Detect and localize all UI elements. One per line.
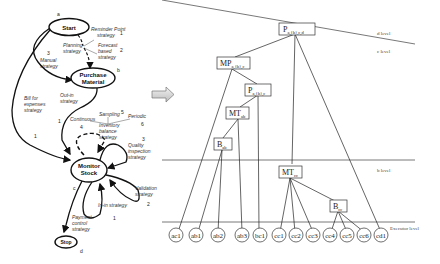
c-level-label: c level	[377, 49, 391, 54]
svg-text:bc1: bc1	[255, 232, 266, 240]
leaf-cc4[interactable]: cc4	[323, 228, 337, 242]
leaf-cc3[interactable]: cc3	[306, 228, 320, 242]
manual-num: 3	[47, 50, 50, 56]
state-tag-d: d	[80, 248, 83, 254]
leaf-ac1[interactable]: ac1	[169, 228, 183, 242]
box-p-top[interactable]: Pa,{b},c,d	[279, 23, 315, 36]
reminder-num: 1	[120, 30, 123, 36]
svg-text:cc2: cc2	[291, 232, 301, 240]
svg-text:ab1: ab1	[191, 232, 202, 240]
sampling-num: 5	[121, 109, 124, 115]
state-purchase-material[interactable]: Purchase Material	[71, 68, 115, 88]
reminder-strategy-label-2: strategy	[97, 32, 115, 38]
forecast-strategy-label-3: strategy	[98, 54, 116, 60]
hierarchy-diagram: d level c level b level Executor level	[162, 0, 420, 242]
bill-num: 1	[34, 133, 37, 139]
box-p-mid[interactable]: Pa,{b},c	[245, 84, 271, 97]
state-purchase-label-2: Material	[82, 79, 105, 85]
payment-strategy-label-3: strategy	[72, 226, 90, 232]
state-start-label: Start	[62, 25, 76, 31]
validation-strategy-label-2: strategy	[135, 191, 153, 197]
leaf-bc1[interactable]: bc1	[253, 228, 267, 242]
svg-text:ab2: ab2	[213, 232, 224, 240]
leaf-cc2[interactable]: cc2	[289, 228, 303, 242]
sampling-label: Sampling	[99, 111, 120, 117]
svg-text:cd1: cd1	[376, 232, 387, 240]
state-monitor-label-2: Stock	[81, 170, 98, 176]
outin-strategy-label-2: strategy	[60, 98, 78, 104]
leaf-cc6[interactable]: cc6	[357, 228, 371, 242]
svg-text:cc3: cc3	[308, 232, 318, 240]
state-purchase-label-1: Purchase	[79, 72, 107, 78]
leaf-cd1[interactable]: cd1	[374, 228, 388, 242]
leaf-nodes: ac1 ab1 ab2 ab3 bc1 cc1 cc2 cc3 cc4 cc5 …	[169, 228, 388, 242]
leaf-ab1[interactable]: ab1	[189, 228, 203, 242]
svg-text:cc4: cc4	[325, 232, 335, 240]
validation-num: 2	[147, 201, 150, 207]
d-level-label: d level	[377, 31, 391, 36]
box-b-cc[interactable]: Bcc	[330, 200, 347, 212]
periodic-label: Periodic	[128, 113, 147, 119]
state-monitor-stock[interactable]: Monitor Stock	[71, 158, 107, 182]
b-level-label: b level	[377, 168, 391, 173]
bill-strategy-label-3: strategy	[24, 107, 42, 113]
state-stop-label: Stop	[60, 239, 71, 245]
svg-text:cc1: cc1	[274, 232, 284, 240]
planning-strategy-label-2: strategy	[63, 48, 81, 54]
state-tag-a: a	[57, 11, 60, 17]
box-mt-cc[interactable]: MTcc	[279, 166, 302, 178]
state-stop[interactable]: Stop	[55, 236, 77, 248]
box-mt-ab[interactable]: MTab	[226, 107, 249, 119]
state-tag-b: b	[117, 67, 120, 73]
diagram-canvas: a Start Reminder Point strategy 1 Planni…	[0, 0, 440, 264]
state-start[interactable]: Start	[49, 19, 89, 36]
leaf-ab2[interactable]: ab2	[211, 228, 225, 242]
state-tag-c: c	[73, 185, 76, 191]
svg-text:cc6: cc6	[359, 232, 369, 240]
leaf-ab3[interactable]: ab3	[235, 228, 249, 242]
transform-arrow-icon	[152, 87, 174, 102]
forecast-num: 2	[120, 47, 123, 53]
quality-strategy-label-3: strategy	[128, 154, 146, 160]
inin-strategy-label: In-in strategy	[98, 202, 127, 208]
periodic-num: 6	[141, 121, 144, 127]
leaf-cc5[interactable]: cc5	[340, 228, 354, 242]
leaf-cc1[interactable]: cc1	[272, 228, 286, 242]
state-monitor-label-1: Monitor	[78, 163, 101, 169]
executor-level-label: Executor level	[390, 226, 420, 231]
outin-num: 1	[58, 118, 61, 124]
box-b-ab[interactable]: Bab	[214, 138, 232, 150]
continuous-num: 4	[80, 124, 83, 130]
svg-text:ab3: ab3	[237, 232, 248, 240]
inin-num: 1	[113, 215, 116, 221]
svg-text:cc5: cc5	[342, 232, 352, 240]
svg-text:ac1: ac1	[171, 232, 181, 240]
state-diagram: a Start Reminder Point strategy 1 Planni…	[12, 11, 157, 254]
box-mp[interactable]: MPa,{b},c	[217, 57, 250, 70]
